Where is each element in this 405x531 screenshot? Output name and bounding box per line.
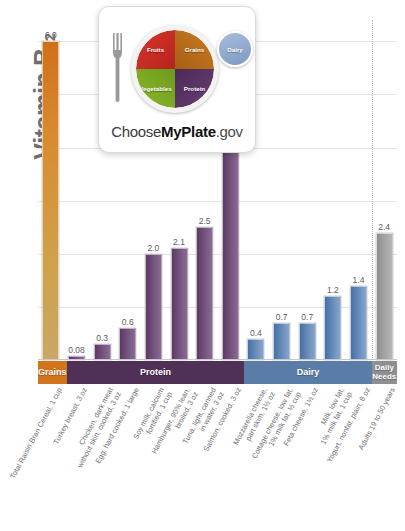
bar-value-label: 1.4: [353, 275, 365, 285]
bar-value-label: 6.0: [45, 30, 57, 40]
wordmark-gov: .gov: [216, 123, 243, 140]
bar-dairy[interactable]: 0.4: [247, 339, 264, 360]
myplate-plate-graphic: Fruits Grains Vegetables Protein Dairy: [99, 13, 255, 117]
plate-segments: Fruits Grains Vegetables Protein: [136, 30, 214, 108]
bar-value-label: 2.4: [378, 222, 390, 232]
bar-slot: 0.7: [269, 20, 295, 360]
bar-value-label: 0.4: [250, 328, 262, 338]
plate-segment-grains: Grains: [175, 30, 214, 69]
plate-segment-grains-label: Grains: [185, 46, 205, 53]
bar-protein[interactable]: 0.6: [119, 328, 136, 360]
bar-slot: 1.2: [320, 20, 346, 360]
bar-value-label: 2.5: [199, 216, 211, 226]
myplate-logo-card: Fruits Grains Vegetables Protein Dairy C…: [98, 6, 256, 153]
bar-slot: 2.4: [371, 20, 397, 360]
plate-segment-dairy-label: Dairy: [227, 46, 242, 53]
bar-needs[interactable]: 2.4: [376, 233, 393, 361]
category-band-needs: DailyNeeds: [372, 361, 397, 384]
bar-slot: 1.4: [346, 20, 372, 360]
plate-segment-fruits: Fruits: [136, 30, 175, 69]
bar-value-label: 0.7: [276, 312, 288, 322]
plate-segment-protein: Protein: [175, 69, 214, 108]
bar-value-label: 0.7: [301, 312, 313, 322]
bar-dairy[interactable]: 1.2: [324, 296, 341, 360]
bar-value-label: 2.0: [147, 243, 159, 253]
category-band-dairy: Dairy: [244, 361, 371, 384]
bar-slot: 6.0: [38, 20, 64, 360]
daily-needs-separator-icon: [372, 20, 373, 360]
bar-dairy[interactable]: 0.7: [273, 323, 290, 360]
category-band-protein: Protein: [67, 361, 245, 384]
category-band-needs-label: DailyNeeds: [372, 364, 396, 380]
bar-slot: 0.7: [294, 20, 320, 360]
bar-value-label: 0.08: [68, 345, 85, 355]
bar-dairy[interactable]: 1.4: [350, 286, 367, 360]
x-axis-tick-labels: Total Raisin Bran Cereal, 1 cupTurkey br…: [38, 386, 397, 526]
plate-rim: Fruits Grains Vegetables Protein: [131, 25, 219, 113]
bar-value-label: 0.6: [122, 317, 134, 327]
wordmark-choose: Choose: [111, 123, 161, 140]
bar-protein[interactable]: 2.1: [171, 248, 188, 360]
vitamin-b12-bar-chart: Micrograms (µg) of Vitamin B12 6.00.080.…: [0, 0, 405, 531]
plate-segment-vegetables: Vegetables: [136, 69, 175, 108]
category-band: GrainsProteinDairyDailyNeeds: [38, 361, 397, 384]
bar-value-label: 1.2: [327, 285, 339, 295]
bar-grains[interactable]: 6.0: [42, 41, 59, 360]
plate-segment-vegetables-label: Vegetables: [139, 85, 171, 92]
myplate-wordmark: ChooseMyPlate.gov: [99, 123, 255, 140]
bar-protein[interactable]: 2.0: [145, 254, 162, 360]
bar-value-label: 2.1: [173, 237, 185, 247]
plate-segment-protein-label: Protein: [184, 85, 205, 92]
bar-value-label: 0.3: [96, 333, 108, 343]
plate-segment-dairy: Dairy: [217, 31, 253, 67]
bar-protein[interactable]: 0.3: [94, 344, 111, 360]
bar-dairy[interactable]: 0.7: [299, 323, 316, 360]
bar-protein[interactable]: 2.5: [196, 227, 213, 360]
wordmark-myplate: MyPlate: [161, 123, 216, 140]
plate-segment-fruits-label: Fruits: [147, 46, 164, 53]
axis-baseline: [38, 359, 397, 360]
bar-slot: 0.08: [64, 20, 90, 360]
category-band-grains: Grains: [38, 361, 67, 384]
fork-icon: [111, 31, 124, 103]
